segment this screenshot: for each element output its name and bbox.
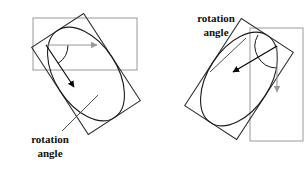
rotation-angle-label-line1: rotation [197,12,235,24]
panel-right: rotation angle [0,0,307,171]
figure-canvas: rotation angle rotation angle [0,0,307,171]
rotation-angle-label-line2: angle [203,26,228,38]
